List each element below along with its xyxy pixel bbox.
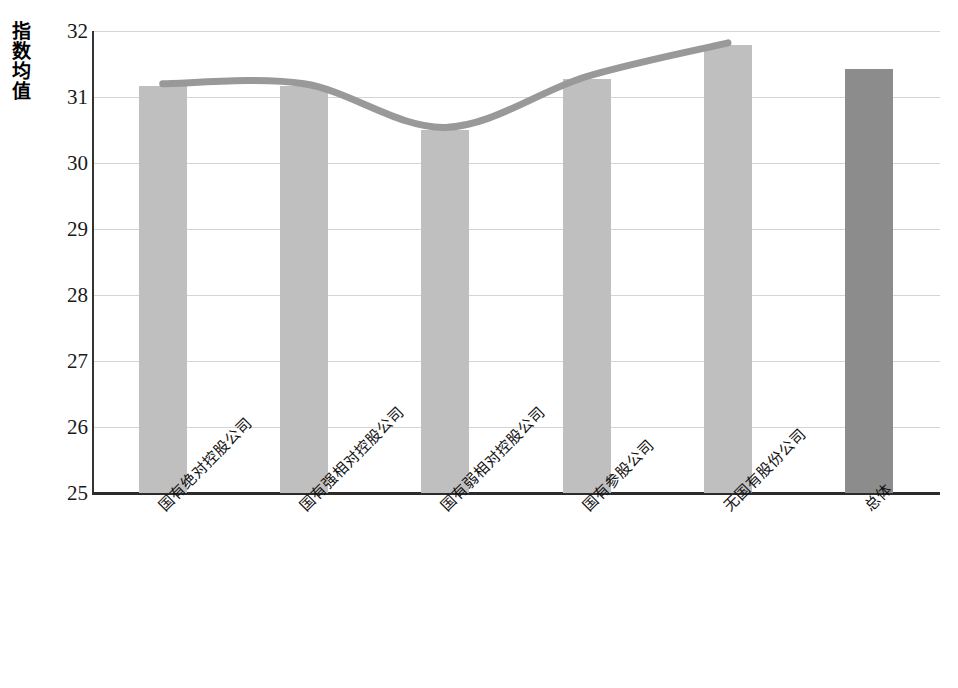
y-tick-32: 32: [40, 19, 88, 44]
bar-0[interactable]: [139, 86, 187, 493]
bar-1[interactable]: [280, 86, 328, 493]
bar-3[interactable]: [563, 79, 611, 493]
y-tick-26: 26: [40, 415, 88, 440]
gridline-32: [92, 31, 940, 32]
y-axis-tick-layer: 32 31 30 29 28 27 26 25: [32, 0, 88, 688]
y-tick-28: 28: [40, 283, 88, 308]
gridline-29: [92, 229, 940, 230]
trend-line-path: [163, 43, 728, 128]
bar-2[interactable]: [421, 130, 469, 493]
y-tick-27: 27: [40, 349, 88, 374]
y-tick-25: 25: [40, 481, 88, 506]
bar-4[interactable]: [704, 45, 752, 493]
y-tick-31: 31: [40, 85, 88, 110]
y-axis-title: 指数均值: [8, 22, 34, 102]
y-tick-30: 30: [40, 151, 88, 176]
x-axis-label-layer: 国有绝对控股公司国有强相对控股公司国有弱相对控股公司国有参股公司无国有股份公司总…: [92, 500, 958, 688]
gridline-31: [92, 97, 940, 98]
chart-container: 指数均值 32 31 30 29 28 27 26 25 国有绝对控股公司国有强…: [0, 0, 958, 688]
gridline-28: [92, 295, 940, 296]
x-axis-line: [92, 492, 940, 495]
bar-5[interactable]: [845, 69, 893, 493]
gridline-30: [92, 163, 940, 164]
gridline-27: [92, 361, 940, 362]
y-axis-line: [92, 31, 94, 493]
y-tick-29: 29: [40, 217, 88, 242]
